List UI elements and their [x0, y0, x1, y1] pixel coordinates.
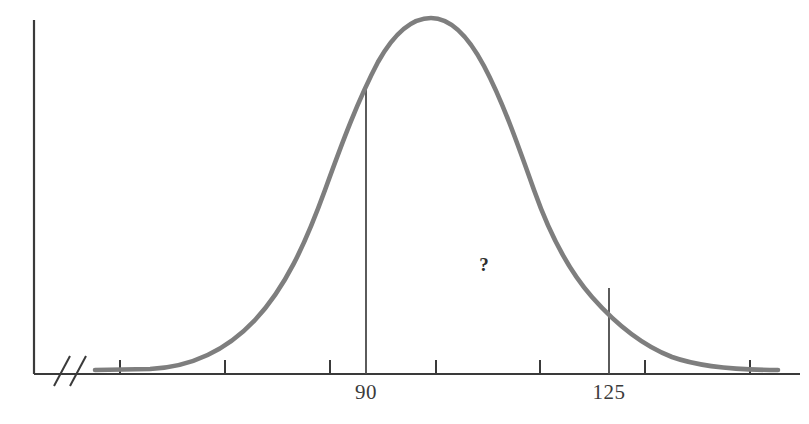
distribution-plot — [0, 0, 809, 424]
axis-break-marks — [54, 356, 86, 386]
normal-distribution-curve — [95, 18, 778, 370]
x-axis-tick-marks — [120, 360, 750, 374]
normal-distribution-figure: 90 125 ? — [0, 0, 809, 424]
unknown-area-question-mark: ? — [479, 254, 489, 276]
x-tick-label-125: 125 — [593, 380, 626, 405]
x-tick-label-90: 90 — [355, 380, 377, 405]
